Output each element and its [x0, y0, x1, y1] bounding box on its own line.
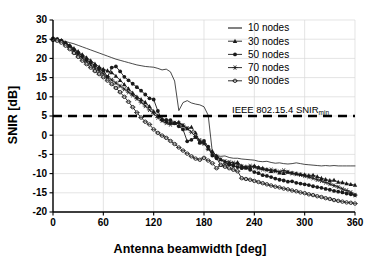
y-axis-title: SNIR [dB] — [6, 86, 20, 144]
y-tick-label: 10 — [36, 91, 48, 102]
x-tick-label: 120 — [145, 217, 162, 228]
y-tick-label: 0 — [41, 130, 47, 141]
legend-label: 30 nodes — [248, 36, 289, 47]
legend-label: 90 nodes — [248, 75, 289, 86]
y-tick-label: -20 — [33, 206, 48, 217]
x-axis-title: Antenna beamwidth [deg] — [114, 242, 267, 256]
x-tick-label: 240 — [246, 217, 263, 228]
x-tick-label: 0 — [50, 217, 56, 228]
y-tick-label: -15 — [33, 187, 48, 198]
x-tick-label: 300 — [296, 217, 313, 228]
y-tick-label: 20 — [36, 53, 48, 64]
chart-figure: IEEE 802.15.4 SNIRmin -20-15-10-50510152… — [0, 0, 371, 263]
y-tick-label: 25 — [36, 34, 48, 45]
y-tick-label: -5 — [38, 149, 47, 160]
y-tick-label: 5 — [41, 110, 47, 121]
legend-label: 10 nodes — [248, 22, 289, 33]
y-tick-label: 30 — [36, 14, 48, 25]
snir-min-annotation-label: IEEE 802.15.4 SNIRmin — [232, 104, 329, 116]
y-tick-label: -10 — [33, 168, 48, 179]
x-tick-label: 60 — [98, 217, 110, 228]
snir-vs-beamwidth-chart: IEEE 802.15.4 SNIRmin -20-15-10-50510152… — [0, 0, 371, 263]
x-tick-label: 360 — [347, 217, 364, 228]
y-tick-label: 15 — [36, 72, 48, 83]
legend-label: 50 nodes — [248, 49, 289, 60]
x-tick-label: 180 — [196, 217, 213, 228]
legend-label: 70 nodes — [248, 62, 289, 73]
